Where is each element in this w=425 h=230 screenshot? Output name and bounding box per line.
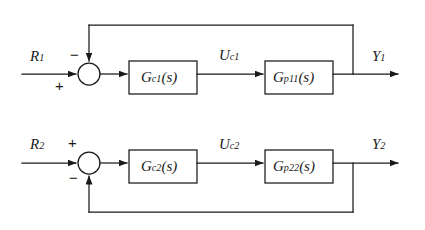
block-diagram: R1 − + Gc1(s) Uc1 Gp11(s) Y1 R2 + − Gc2(… bbox=[0, 0, 425, 230]
loop2-plant-block bbox=[265, 150, 333, 183]
loop2-summing-junction bbox=[78, 152, 100, 174]
loop2-controller-block bbox=[129, 150, 197, 183]
loop1-plant-block bbox=[265, 61, 333, 94]
diagram-canvas bbox=[0, 0, 425, 230]
loop1-summing-junction bbox=[78, 63, 100, 85]
loop1-controller-block bbox=[129, 61, 197, 94]
